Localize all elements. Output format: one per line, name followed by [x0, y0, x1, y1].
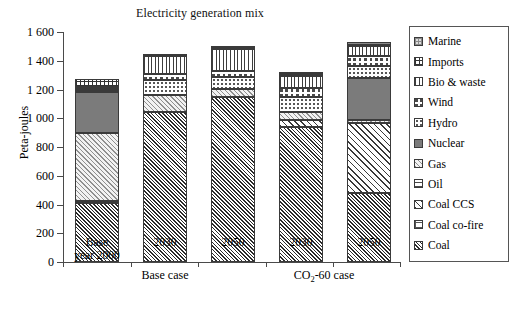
bar-2[interactable] [143, 55, 187, 262]
chart-container: Electricity generation mix Peta-joules 0… [0, 0, 516, 326]
y-tick-mark [57, 233, 63, 234]
bar-segment-hydro [75, 90, 119, 92]
x-axis-line [63, 262, 400, 263]
y-tick-mark [57, 176, 63, 177]
bar-segment-wind [211, 71, 255, 77]
bar-segment-marine [347, 42, 391, 45]
legend-item-oil[interactable]: Oil [414, 174, 508, 194]
y-tick-label: 1 400 [27, 53, 54, 68]
y-tick-mark [57, 32, 63, 33]
bar-segment-gas [347, 120, 391, 123]
bar-segment-bio-waste [143, 56, 187, 75]
group-label-prefix: CO [294, 268, 311, 282]
legend-label: Marine [428, 35, 461, 47]
y-tick-label: 400 [36, 197, 54, 212]
legend-swatch-icon [414, 159, 423, 168]
bar-segment-hydro [279, 97, 323, 112]
x-tick-mark [131, 262, 132, 267]
x-tick-label-line2: year 2000 [57, 249, 137, 262]
bar-segment-bio-waste [211, 49, 255, 71]
x-tick-mark [198, 262, 199, 267]
bar-segment-coal-ccs [279, 120, 323, 126]
bar-5[interactable] [347, 42, 391, 262]
legend-swatch-icon [414, 37, 423, 46]
legend-item-imports[interactable]: Imports [414, 51, 508, 71]
legend-item-gas[interactable]: Gas [414, 153, 508, 173]
legend-swatch-icon [414, 118, 423, 127]
x-tick-label-2050-co2: 2050 [329, 236, 409, 249]
bar-segment-coal [347, 193, 391, 262]
bar-3[interactable] [211, 47, 255, 262]
legend-item-wind[interactable]: Wind [414, 92, 508, 112]
legend-swatch-icon [414, 77, 423, 86]
bar-segment-gas [211, 89, 255, 97]
legend-swatch-icon [414, 200, 423, 209]
bar-segment-marine [211, 46, 255, 48]
legend-label: Coal CCS [428, 198, 474, 210]
y-tick-label: 200 [36, 226, 54, 241]
x-tick-mark [63, 262, 64, 267]
legend-swatch-icon [414, 139, 423, 148]
legend-item-coal-ccs[interactable]: Coal CCS [414, 194, 508, 214]
bar-segment-wind [347, 56, 391, 66]
legend-swatch-icon [414, 179, 423, 188]
bar-1[interactable] [75, 79, 119, 262]
bar-segment-gas [279, 112, 323, 121]
x-tick-mark [400, 262, 401, 267]
y-tick-mark [57, 118, 63, 119]
y-tick-label: 800 [36, 140, 54, 155]
bar-segment-bio-waste [279, 76, 323, 88]
legend-item-hydro[interactable]: Hydro [414, 113, 508, 133]
legend-label: Coal co-fire [428, 219, 483, 231]
bar-segment-imports [75, 79, 119, 88]
legend-swatch-icon [414, 220, 423, 229]
group-label-base-case: Base case [100, 268, 230, 283]
legend-item-marine[interactable]: Marine [414, 31, 508, 51]
bar-segment-hydro [347, 66, 391, 78]
bar-segment-marine [279, 72, 323, 74]
bar-segment-gas [75, 133, 119, 201]
y-tick-label: 1 600 [27, 25, 54, 40]
legend-swatch-icon [414, 241, 423, 250]
bar-segment-gas [143, 95, 187, 112]
bar-segment-hydro [211, 77, 255, 89]
bar-segment-bio-waste [347, 46, 391, 55]
x-tick-mark [266, 262, 267, 267]
y-tick-label: 600 [36, 168, 54, 183]
legend-item-coal-co-fire[interactable]: Coal co-fire [414, 215, 508, 235]
group-label-suffix: -60 case [315, 268, 355, 282]
legend-label: Nuclear [428, 137, 464, 149]
bar-segment-imports [143, 54, 187, 56]
plot-area: 02004006008001 0001 2001 4001 600 [63, 32, 400, 263]
group-label-co2-60-case: CO2-60 case [259, 268, 389, 284]
y-tick-mark [57, 147, 63, 148]
bar-segment-hydro [143, 80, 187, 95]
legend-item-coal[interactable]: Coal [414, 235, 508, 255]
bar-4[interactable] [279, 74, 323, 262]
y-tick-mark [57, 61, 63, 62]
chart-title: Electricity generation mix [0, 6, 400, 21]
legend-label: Oil [428, 178, 443, 190]
y-tick-label: 1 200 [27, 82, 54, 97]
legend-label: Coal [428, 239, 450, 251]
legend-label: Hydro [428, 117, 457, 129]
bar-segment-nuclear [75, 92, 119, 133]
legend-item-bio-waste[interactable]: Bio & waste [414, 72, 508, 92]
legend-label: Bio & waste [428, 76, 486, 88]
y-tick-mark [57, 205, 63, 206]
legend-swatch-icon [414, 57, 423, 66]
legend-item-nuclear[interactable]: Nuclear [414, 133, 508, 153]
y-tick-label: 0 [48, 255, 54, 270]
legend-label: Imports [428, 56, 464, 68]
legend-label: Gas [428, 158, 446, 170]
legend-swatch-icon [414, 98, 423, 107]
y-tick-label: 1 000 [27, 111, 54, 126]
bar-segment-coal-ccs [347, 123, 391, 193]
x-tick-mark [333, 262, 334, 267]
bar-segment-wind [279, 88, 323, 97]
y-axis-line [63, 32, 64, 263]
bar-segment-coal-co-fire [75, 201, 119, 203]
bar-segment-nuclear [347, 78, 391, 120]
y-tick-mark [57, 90, 63, 91]
bar-segment-wind [143, 74, 187, 80]
